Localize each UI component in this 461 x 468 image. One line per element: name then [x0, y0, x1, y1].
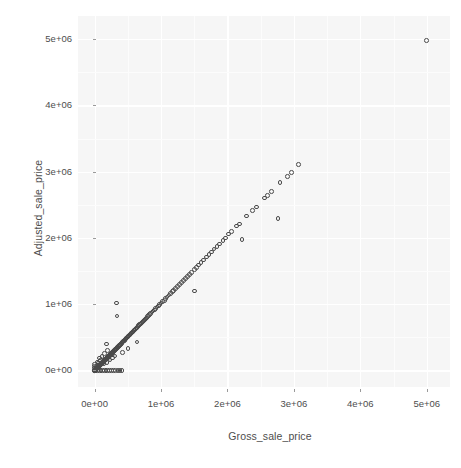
- x-tick-mark: [95, 389, 96, 392]
- x-tick-mark: [360, 389, 361, 392]
- x-tick-mark: [427, 389, 428, 392]
- scatter-plot-figure: 0e+001e+062e+063e+064e+065e+06 0e+001e+0…: [0, 0, 461, 468]
- x-axis-ticks: 0e+001e+062e+063e+064e+065e+06: [0, 0, 461, 468]
- x-tick-mark: [161, 389, 162, 392]
- x-tick-label: 0e+00: [65, 398, 125, 409]
- x-tick-label: 2e+06: [197, 398, 257, 409]
- x-axis-title: Gross_sale_price: [90, 430, 450, 442]
- x-tick-label: 4e+06: [330, 398, 390, 409]
- x-tick-label: 5e+06: [397, 398, 457, 409]
- x-tick-mark: [227, 389, 228, 392]
- x-tick-mark: [294, 389, 295, 392]
- x-tick-label: 3e+06: [264, 398, 324, 409]
- y-axis-title: Adjusted_sale_price: [32, 108, 44, 308]
- x-tick-label: 1e+06: [131, 398, 191, 409]
